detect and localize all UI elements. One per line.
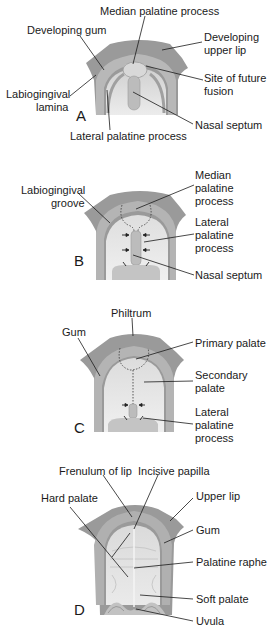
label-lateral-palatine-process-line3: process — [195, 432, 234, 445]
label-lateral-palatine-process: Lateral palatine process — [70, 130, 187, 143]
label-soft-palate: Soft palate — [196, 593, 249, 606]
label-hard-palate: Hard palate — [41, 492, 98, 505]
label-lateral-palatine-process-line1: Lateral — [195, 406, 229, 419]
label-median-palatine-process-line2: palatine — [195, 182, 234, 195]
label-nasal-septum: Nasal septum — [195, 269, 262, 282]
label-developing-upper-lip-line2: upper lip — [204, 44, 246, 57]
label-gum: Gum — [62, 326, 86, 339]
panel-c: Philtrum Gum Primary palate Secondary pa… — [0, 300, 278, 455]
label-site-of-future-fusion-line2: fusion — [204, 85, 233, 98]
label-frenulum-of-lip: Frenulum of lip — [59, 465, 132, 478]
label-median-palatine-process-line1: Median — [195, 169, 231, 182]
panel-b: Median palatine process Labiogingival gr… — [0, 155, 278, 305]
label-secondary-palate-line1: Secondary — [195, 369, 248, 382]
label-lateral-palatine-process-line2: palatine — [195, 229, 234, 242]
label-median-palatine-process: Median palatine process — [100, 5, 219, 18]
label-median-palatine-process-line3: process — [195, 195, 234, 208]
panel-letter-c: C — [74, 420, 85, 435]
palate-illustration-d — [0, 455, 278, 634]
label-labiogingival-groove-line1: Labiogingival — [21, 184, 85, 197]
panel-letter-b: B — [74, 253, 84, 268]
label-site-of-future-fusion-line1: Site of future — [204, 72, 266, 85]
label-gum: Gum — [196, 524, 220, 537]
palate-illustration-b — [0, 155, 278, 305]
label-lateral-palatine-process-line1: Lateral — [195, 216, 229, 229]
label-developing-gum: Developing gum — [27, 24, 107, 37]
panel-letter-a: A — [76, 108, 86, 123]
label-palatine-raphe: Palatine raphe — [196, 556, 267, 569]
label-nasal-septum: Nasal septum — [195, 119, 262, 132]
label-philtrum: Philtrum — [111, 307, 151, 320]
label-primary-palate: Primary palate — [195, 337, 266, 350]
panel-letter-d: D — [74, 602, 85, 617]
label-secondary-palate-line2: palate — [195, 382, 225, 395]
label-lateral-palatine-process-line3: process — [195, 242, 234, 255]
label-developing-upper-lip-line1: Developing — [204, 31, 259, 44]
label-uvula: Uvula — [196, 615, 224, 628]
label-lateral-palatine-process-line2: palatine — [195, 419, 234, 432]
label-incisive-papilla: Incisive papilla — [138, 465, 210, 478]
label-labiogingival-groove-line2: groove — [51, 197, 85, 210]
label-labiogingival-lamina-line2: lamina — [36, 101, 68, 114]
panel-d: Frenulum of lip Incisive papilla Hard pa… — [0, 455, 278, 634]
label-upper-lip: Upper lip — [196, 490, 240, 503]
panel-a: Median palatine process Developing gum D… — [0, 0, 278, 155]
label-labiogingival-lamina-line1: Labiogingival — [6, 88, 70, 101]
